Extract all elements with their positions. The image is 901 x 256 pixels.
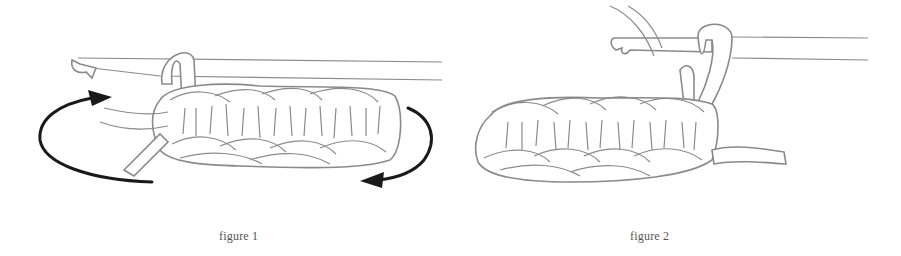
crochet-illustration-hook-icon — [450, 0, 901, 256]
figure-1: figure 1 — [0, 0, 450, 256]
figure-2-caption: figure 2 — [630, 229, 669, 244]
figure-2: figure 2 — [450, 0, 901, 256]
crochet-illustration-turn-icon — [0, 0, 450, 256]
figure-1-caption: figure 1 — [219, 229, 258, 244]
